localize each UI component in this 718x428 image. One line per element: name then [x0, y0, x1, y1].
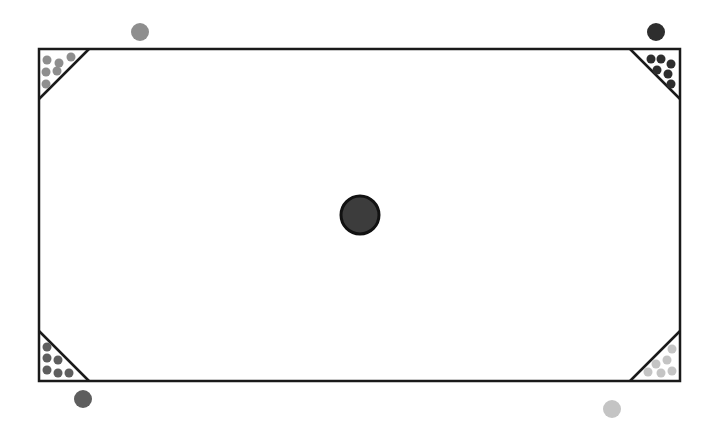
bottom-right-piece[interactable]: [668, 367, 677, 376]
bottom-left-piece[interactable]: [43, 343, 52, 352]
bottom-right-piece[interactable]: [668, 345, 677, 354]
top-left-piece[interactable]: [53, 67, 62, 76]
top-left-piece[interactable]: [55, 59, 64, 68]
bottom-right-player-marker: [603, 400, 621, 418]
bottom-right-piece[interactable]: [657, 369, 666, 378]
bottom-right-piece[interactable]: [652, 360, 661, 369]
top-left-piece[interactable]: [43, 56, 52, 65]
bottom-left-piece[interactable]: [65, 369, 74, 378]
bottom-left-piece[interactable]: [43, 366, 52, 375]
top-right-piece[interactable]: [664, 70, 673, 79]
center-piece[interactable]: [341, 196, 379, 234]
bottom-left-piece[interactable]: [54, 369, 63, 378]
top-right-piece[interactable]: [667, 60, 676, 69]
top-right-piece[interactable]: [667, 80, 676, 89]
top-right-player-marker: [647, 23, 665, 41]
bottom-right-piece[interactable]: [663, 356, 672, 365]
top-left-piece[interactable]: [67, 53, 76, 62]
bottom-left-player-marker: [74, 390, 92, 408]
bottom-right-piece[interactable]: [644, 368, 653, 377]
top-right-piece[interactable]: [657, 55, 666, 64]
game-board[interactable]: [0, 0, 718, 428]
bottom-left-piece[interactable]: [43, 354, 52, 363]
top-left-player-marker: [131, 23, 149, 41]
bottom-left-piece[interactable]: [54, 356, 63, 365]
top-right-piece[interactable]: [647, 55, 656, 64]
top-right-piece[interactable]: [653, 66, 662, 75]
top-left-piece[interactable]: [42, 80, 51, 89]
top-left-piece[interactable]: [42, 68, 51, 77]
